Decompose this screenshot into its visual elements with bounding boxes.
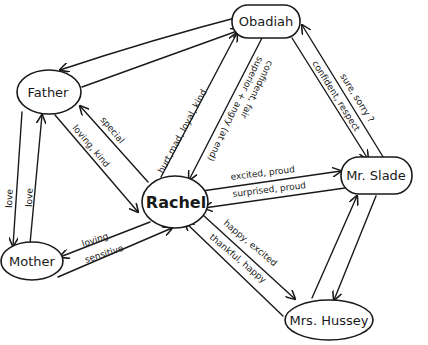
- node-rachel[interactable]: Rachel: [142, 176, 208, 228]
- node-label-obadiah: Obadiah: [239, 14, 294, 29]
- edge-label-loving-kind: loving, kind: [70, 123, 111, 169]
- node-mrs-hussey[interactable]: Mrs. Hussey: [285, 300, 373, 340]
- edge-label-superior-angry: superior + angry (at end): [206, 55, 265, 163]
- edge-label-loving: loving: [81, 231, 110, 249]
- edge-mrs-hussey-to-rachel: [185, 222, 283, 316]
- node-label-mr-slade: Mr. Slade: [346, 168, 406, 183]
- edge-label-happy-excited: happy, excited: [222, 218, 279, 268]
- edge-mr-slade-to-mrs-hussey: [334, 196, 376, 300]
- edge-mrs-hussey-to-mr-slade: [312, 196, 357, 298]
- node-label-rachel: Rachel: [146, 193, 206, 212]
- node-label-father: Father: [28, 85, 70, 100]
- node-mr-slade[interactable]: Mr. Slade: [341, 157, 412, 194]
- node-label-mrs-hussey: Mrs. Hussey: [290, 313, 369, 328]
- edge-father-to-rachel: [55, 115, 138, 212]
- edge-mr-slade-to-obadiah: [302, 25, 385, 160]
- edge-label-thankful-happy: thankful, happy: [208, 232, 269, 286]
- node-mother[interactable]: Mother: [1, 242, 63, 280]
- edge-label-love-down: love: [4, 188, 15, 208]
- edge-label-special: special: [98, 115, 126, 145]
- node-obadiah[interactable]: Obadiah: [232, 5, 300, 38]
- edge-rachel-to-mrs-hussey: [203, 215, 295, 299]
- edge-mother-to-father: [30, 115, 42, 244]
- relationship-diagram: special loving, kind hurt,mad, loyal, ki…: [0, 0, 428, 345]
- edge-label-hurt-mad-loyal-kind: hurt,mad, loyal, kind: [156, 88, 209, 175]
- edge-father-to-mother: [13, 112, 22, 246]
- node-father[interactable]: Father: [17, 70, 81, 114]
- edge-label-surprised-proud: surprised, proud: [232, 180, 306, 199]
- node-label-mother: Mother: [9, 254, 56, 269]
- edge-label-love-up: love: [24, 187, 35, 207]
